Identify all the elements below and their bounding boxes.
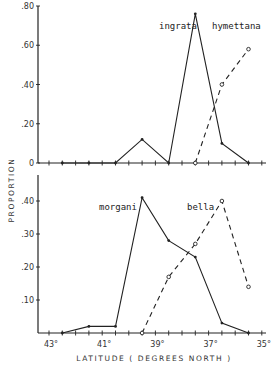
data-point-ingrata [61,162,64,165]
data-point-hymettana [194,161,198,165]
series-line-bella [142,201,248,333]
latitude-proportion-chart: .80.60.40.200 ingrata hymettana PROPORTI… [0,0,272,367]
data-point-bella [247,285,251,289]
top-y-ticks: .80.60.40.200 [21,2,40,168]
data-point-ingrata [194,12,197,15]
bottom-panel: .40.30.20.10 43°41°39°37°35° morgani bel… [21,175,271,349]
x-tick-label: 35° [257,340,271,349]
data-point-hymettana [220,83,224,87]
x-axis-title: LATITUDE ( DEGREES NORTH ) [76,354,231,363]
y-tick-label: .30 [21,230,34,239]
series-line-ingrata [62,14,248,163]
label-bella: bella [187,202,214,212]
y-tick-label: 0 [29,159,34,168]
data-point-morgani [167,239,170,242]
data-point-morgani [247,332,250,335]
bottom-series [61,196,250,335]
data-point-ingrata [88,162,91,165]
y-tick-label: .40 [21,81,34,90]
label-morgani: morgani [99,202,137,212]
data-point-hymettana [247,47,251,51]
y-tick-label: .60 [21,41,34,50]
data-point-ingrata [247,162,250,165]
data-point-ingrata [167,162,170,165]
data-point-morgani [61,332,64,335]
label-hymettana: hymettana [212,21,261,31]
data-point-ingrata [114,162,117,165]
data-point-morgani [141,196,144,199]
top-panel: .80.60.40.200 ingrata hymettana [21,2,266,168]
data-point-morgani [114,325,117,328]
series-line-hymettana [195,49,248,163]
data-point-morgani [194,256,197,259]
y-tick-label: .20 [21,263,34,272]
data-point-morgani [88,325,91,328]
label-ingrata: ingrata [159,21,197,31]
data-point-bella [220,199,224,203]
data-point-bella [140,331,144,335]
x-tick-label: 39° [150,340,164,349]
data-point-ingrata [221,142,224,145]
data-point-bella [167,275,171,279]
y-tick-label: .20 [21,120,34,129]
bottom-y-ticks: .40.30.20.10 [21,197,40,305]
y-tick-label: .10 [21,296,34,305]
x-tick-label: 41° [97,340,111,349]
y-axis-title: PROPORTION [7,157,16,222]
top-series [61,12,250,164]
series-line-morgani [62,198,248,333]
x-tick-label: 37° [204,340,218,349]
data-point-bella [194,242,198,246]
x-tick-label: 43° [44,340,58,349]
y-tick-label: .80 [21,2,34,11]
y-tick-label: .40 [21,197,34,206]
data-point-ingrata [141,138,144,141]
data-point-morgani [221,322,224,325]
